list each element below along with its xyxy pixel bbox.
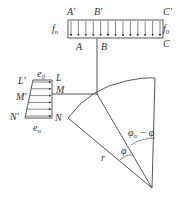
- diagram-canvas: A' B' C' A B C fn f0 e0 L' L M' M N' N e…: [0, 0, 179, 207]
- label-m-prime: M': [15, 91, 27, 102]
- side-load-outline: [25, 80, 52, 118]
- top-load-arrows: [71, 21, 160, 36]
- top-distributed-load: [68, 20, 163, 38]
- label-n: N: [54, 112, 63, 123]
- label-l-prime: L': [17, 75, 27, 86]
- sector-mid-radius: [97, 94, 152, 188]
- label-c-prime: C': [163, 6, 173, 17]
- label-en: en: [33, 122, 41, 135]
- label-n-prime: N': [9, 111, 20, 122]
- label-e0: e0: [37, 68, 45, 81]
- label-b: B: [101, 41, 107, 52]
- label-b-prime: B': [94, 6, 103, 17]
- label-c: C: [163, 38, 170, 49]
- label-f0: f0: [163, 23, 170, 36]
- label-fn: fn: [52, 23, 59, 36]
- label-m: M: [55, 84, 65, 95]
- label-l: L: [55, 72, 62, 83]
- label-angle-phi: φ: [121, 145, 127, 156]
- label-a: A: [75, 41, 83, 52]
- side-distributed-load: [25, 80, 52, 118]
- label-a-prime: A': [66, 6, 76, 17]
- label-radius-r: r: [101, 152, 105, 163]
- sector-arc: [68, 78, 155, 118]
